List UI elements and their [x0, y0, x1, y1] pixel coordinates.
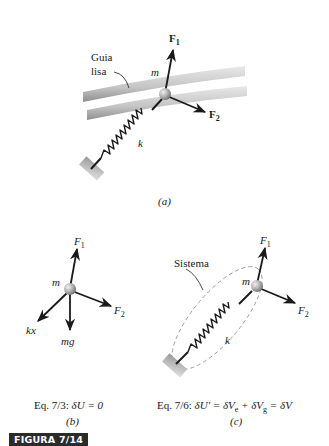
- mass-ball: [251, 280, 263, 292]
- force-f2-arrow: [72, 291, 111, 306]
- spring-label: k: [138, 138, 143, 149]
- force-f2-label: F2: [114, 305, 125, 319]
- force-symbol: F: [74, 235, 81, 247]
- equation-prefix: Eq. 7/6:: [157, 399, 192, 411]
- mass-label: m: [242, 276, 250, 287]
- force-symbol: F: [114, 304, 121, 316]
- force-subscript: 2: [121, 310, 125, 319]
- force-subscript: 2: [216, 114, 220, 123]
- equation-text: δU = 0: [72, 399, 103, 411]
- panel-b: [38, 249, 111, 330]
- equation-text: δU' = δVe + δVg = δV: [195, 399, 292, 411]
- caption-c: (c): [230, 416, 242, 427]
- weight-label: mg: [61, 336, 74, 347]
- force-subscript: 2: [305, 310, 309, 319]
- system-leader-line: [186, 269, 203, 290]
- figure-label-badge: FIGURA 7/14: [9, 433, 88, 446]
- force-subscript: 1: [176, 38, 180, 47]
- force-f2-label: F2: [209, 109, 220, 123]
- spring-force-arrow: [38, 293, 67, 321]
- figure-graphics: [0, 0, 329, 446]
- mass-label: m: [52, 277, 60, 288]
- caption-a: (a): [158, 196, 171, 207]
- force-f1-label: F1: [260, 235, 271, 249]
- force-f2-label: F2: [298, 305, 309, 319]
- force-f2-arrow: [259, 288, 295, 303]
- force-symbol: F: [169, 32, 176, 44]
- equation-c: Eq. 7/6: δU' = δVe + δVg = δV: [157, 400, 292, 414]
- mass-ball: [159, 88, 171, 100]
- mass-ball: [64, 283, 76, 295]
- force-subscript: 1: [81, 241, 85, 250]
- equation-prefix: Eq. 7/3:: [34, 399, 69, 411]
- force-f1-arrow: [257, 248, 265, 284]
- force-symbol: F: [260, 234, 267, 246]
- force-f1-arrow: [70, 249, 77, 288]
- guide-label-line2: lisa: [91, 66, 106, 77]
- system-label: Sistema: [174, 258, 209, 269]
- force-f1-label: F1: [169, 33, 180, 47]
- force-subscript: 1: [267, 240, 271, 249]
- guide-label-line1: Guia: [91, 52, 112, 63]
- caption-b: (b): [66, 416, 79, 427]
- spring-force-label: kx: [26, 325, 36, 336]
- force-symbol: F: [209, 108, 216, 120]
- force-f1-arrow: [165, 50, 173, 93]
- force-symbol: F: [298, 304, 305, 316]
- spring-label: k: [225, 335, 230, 346]
- spring-icon: [188, 302, 229, 352]
- force-f1-label: F1: [74, 236, 85, 250]
- equation-b: Eq. 7/3: δU = 0: [34, 400, 103, 411]
- mass-label: m: [151, 67, 159, 78]
